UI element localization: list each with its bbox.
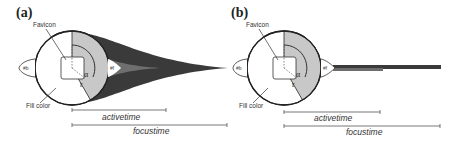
panel-a: (a) α r #b #f Favicon Fill color <box>16 5 228 136</box>
panel-b: (b) α r #b #f Favicon Fill color activet… <box>231 5 441 137</box>
r-label: r <box>80 80 83 89</box>
tf-label: #f <box>110 65 115 71</box>
activetime-label: activetime <box>314 113 353 123</box>
favicon-annotation: Favicon <box>246 21 269 28</box>
tf-label: #f <box>323 65 328 71</box>
r-label: r <box>292 80 295 89</box>
panel-a-label: (a) <box>16 5 33 21</box>
tb-label: #b <box>23 65 29 71</box>
fill-color-annotation: Fill color <box>26 102 51 109</box>
activetime-timeline: activetime <box>284 110 380 123</box>
panel-b-label: (b) <box>231 5 248 21</box>
active-bar <box>333 68 383 71</box>
focustime-timeline: focustime <box>284 124 440 137</box>
diagram-canvas: (a) α r #b #f Favicon Fill color <box>0 0 459 141</box>
favicon-annotation: Favicon <box>33 21 56 28</box>
focustime-label: focustime <box>133 126 170 136</box>
fill-color-annotation: Fill color <box>239 102 264 109</box>
activetime-timeline: activetime <box>72 108 166 122</box>
focustime-label: focustime <box>346 127 383 137</box>
activetime-label: activetime <box>102 112 141 122</box>
focustime-timeline: focustime <box>72 123 227 136</box>
tb-label: #b <box>236 65 242 71</box>
